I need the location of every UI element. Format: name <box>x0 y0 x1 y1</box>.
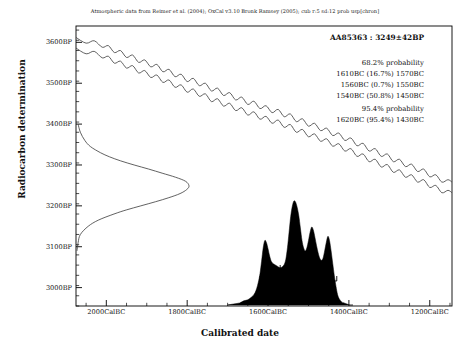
sigma2-header: 95.4% probability <box>336 104 424 115</box>
plot-canvas <box>0 0 470 354</box>
sigma1-header: 68.2% probability <box>336 58 424 69</box>
sigma1-range-2: 1540BC (50.8%) 1450BC <box>336 91 424 102</box>
sample-id-label: AA85363 : 3249±42BP <box>330 33 424 42</box>
sigma2-range-0: 1620BC (95.4%) 1430BC <box>336 115 424 126</box>
sigma1-range-1: 1560BC (0.7%) 1550BC <box>336 80 424 91</box>
probability-summary: 68.2% probability 1610BC (16.7%) 1570BC … <box>336 58 424 127</box>
radiocarbon-calibration-plot: Atmospheric data from Reimer et al. (200… <box>0 0 470 354</box>
sigma1-range-0: 1610BC (16.7%) 1570BC <box>336 69 424 80</box>
